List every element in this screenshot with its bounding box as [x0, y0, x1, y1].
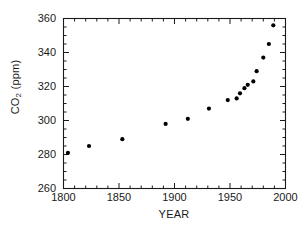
- data-point: [186, 117, 190, 121]
- y-axis-title-base: CO: [9, 97, 21, 114]
- data-point: [271, 23, 275, 27]
- data-point: [164, 122, 168, 126]
- y-tick-label: 300: [22, 114, 56, 126]
- data-point: [207, 107, 211, 111]
- data-point: [226, 98, 230, 102]
- y-tick-label: 340: [22, 46, 56, 58]
- data-point: [255, 69, 259, 73]
- co2-scatter-chart: CO2 (ppm) YEAR 1800185019001950200026028…: [0, 0, 308, 226]
- y-tick-label: 320: [22, 80, 56, 92]
- data-point: [261, 56, 265, 60]
- data-point: [235, 96, 239, 100]
- y-axis-title-subscript: 2: [14, 93, 23, 98]
- data-point: [238, 91, 242, 95]
- y-axis-title-unit: (ppm): [9, 60, 21, 93]
- x-tick-label: 2000: [266, 191, 306, 203]
- y-tick-label: 360: [22, 12, 56, 24]
- y-tick-label: 280: [22, 148, 56, 160]
- plot-frame: [64, 19, 286, 189]
- y-axis-title: CO2 (ppm): [9, 39, 23, 135]
- x-tick-label: 1850: [99, 191, 139, 203]
- data-point: [242, 86, 246, 90]
- data-point: [251, 79, 255, 83]
- data-point: [66, 151, 70, 155]
- x-axis-title: YEAR: [63, 208, 285, 220]
- data-point: [120, 137, 124, 141]
- x-tick-label: 1950: [210, 191, 250, 203]
- y-tick-label: 260: [22, 182, 56, 194]
- data-series-co2: [66, 23, 276, 155]
- x-tick-label: 1900: [155, 191, 195, 203]
- data-point: [246, 83, 250, 87]
- data-point: [267, 42, 271, 46]
- data-point: [87, 144, 91, 148]
